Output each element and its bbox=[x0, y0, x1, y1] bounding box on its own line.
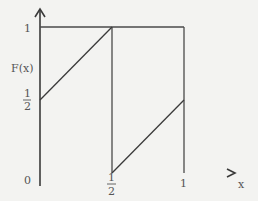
function-label: F(x) bbox=[11, 62, 33, 75]
x-tick-zero: 0 bbox=[24, 174, 31, 187]
second-ramp bbox=[112, 100, 184, 173]
y-tick-one: 1 bbox=[24, 22, 31, 35]
x-axis bbox=[22, 169, 235, 177]
x-tick-half: 1 2 bbox=[107, 171, 116, 198]
x-tick-one: 1 bbox=[180, 177, 187, 190]
svg-text:1: 1 bbox=[108, 171, 115, 184]
y-tick-half: 1 2 bbox=[23, 87, 31, 113]
svg-text:1: 1 bbox=[24, 87, 31, 100]
y-axis bbox=[35, 9, 45, 186]
svg-text:2: 2 bbox=[108, 185, 115, 198]
first-ramp bbox=[40, 27, 112, 100]
svg-text:2: 2 bbox=[24, 100, 31, 113]
function-diagram: 1 F(x) 1 2 0 1 2 1 x bbox=[0, 0, 258, 201]
x-axis-label: x bbox=[238, 178, 245, 191]
